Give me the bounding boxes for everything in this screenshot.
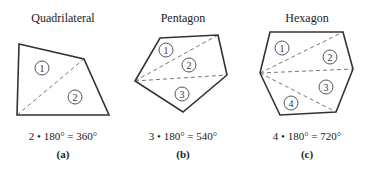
angle-sum-equation: 4 • 180° = 720° xyxy=(273,130,341,142)
triangle-number-badge: 2 xyxy=(323,50,337,64)
figure-label: (c) xyxy=(301,148,314,161)
triangle-number-badge: 1 xyxy=(275,41,289,55)
figure-title: Hexagon xyxy=(285,11,328,25)
diagonal-line xyxy=(17,59,84,115)
triangle-number: 1 xyxy=(164,45,169,56)
hexagon-shape xyxy=(260,32,353,115)
triangle-number: 2 xyxy=(187,60,192,71)
diagonal-line xyxy=(135,75,227,81)
figure-pentagon: Pentagon 123 3 • 180° = 540° (b) xyxy=(135,11,227,161)
triangle-number: 1 xyxy=(280,43,285,54)
polygon-angle-sum-diagram: Quadrilateral 12 2 • 180° = 360° (a) Pen… xyxy=(0,0,368,173)
triangle-number-badge: 2 xyxy=(182,58,196,72)
triangle-number: 1 xyxy=(40,63,45,74)
triangle-number-badge: 2 xyxy=(68,90,82,104)
triangle-number: 3 xyxy=(180,89,185,100)
triangle-number: 2 xyxy=(73,92,78,103)
figure-title: Quadrilateral xyxy=(31,11,95,25)
triangle-number: 2 xyxy=(328,52,333,63)
triangle-number-badge: 3 xyxy=(319,80,333,94)
figure-label: (b) xyxy=(176,148,190,161)
quadrilateral-shape xyxy=(17,44,109,115)
triangle-number: 4 xyxy=(289,98,294,109)
angle-sum-equation: 2 • 180° = 360° xyxy=(29,130,97,142)
angle-sum-equation: 3 • 180° = 540° xyxy=(149,130,217,142)
triangle-number-badge: 1 xyxy=(35,61,49,75)
triangle-number-badge: 3 xyxy=(175,87,189,101)
figure-quadrilateral: Quadrilateral 12 2 • 180° = 360° (a) xyxy=(17,11,109,161)
diagonal-line xyxy=(260,69,353,73)
triangle-number: 3 xyxy=(324,82,329,93)
triangle-number-badge: 1 xyxy=(159,43,173,57)
figure-title: Pentagon xyxy=(161,11,206,25)
figure-label: (a) xyxy=(57,148,70,161)
triangle-number-badge: 4 xyxy=(284,96,298,110)
figure-hexagon: Hexagon 1234 4 • 180° = 720° (c) xyxy=(260,11,353,161)
